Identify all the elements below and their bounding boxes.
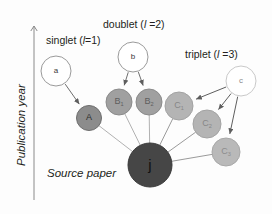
paper-node-c[interactable] [226,66,256,96]
link-C1-to-j [160,119,173,146]
edge-c-to-C1 [196,87,226,99]
doublet-label: doublet (l =2) [103,19,165,30]
paper-node-B2[interactable] [136,89,162,115]
paper-node-B1[interactable] [106,89,132,115]
paper-node-j[interactable] [128,143,172,187]
singlet-label: singlet (l=1) [46,35,101,46]
citation-multiplet-diagram: Publication year Source paper singlet (l… [0,0,272,214]
axis-label-publication-year: Publication year [16,84,28,166]
paper-node-b[interactable] [118,42,148,72]
diagram-canvas [0,0,272,214]
edge-c-to-C2 [218,94,231,110]
link-B1-to-j [125,114,141,146]
edge-c-to-C3 [230,97,238,134]
link-C3-to-j [172,154,213,161]
paper-node-A[interactable] [77,106,102,131]
paper-node-a[interactable] [41,56,71,86]
paper-node-C3[interactable] [212,138,240,166]
edge-b-to-B2 [138,72,143,85]
paper-node-C2[interactable] [193,110,221,138]
triplet-label: triplet (l =3) [185,49,238,60]
link-A-to-j [99,126,133,152]
paper-node-C1[interactable] [165,92,193,120]
paper-nodes-group [41,42,256,187]
edge-a-to-A [65,84,79,104]
link-C2-to-j [168,132,196,152]
publication-year-axis [31,26,37,200]
source-paper-label: Source paper [47,168,116,180]
edge-b-to-B1 [124,72,128,85]
